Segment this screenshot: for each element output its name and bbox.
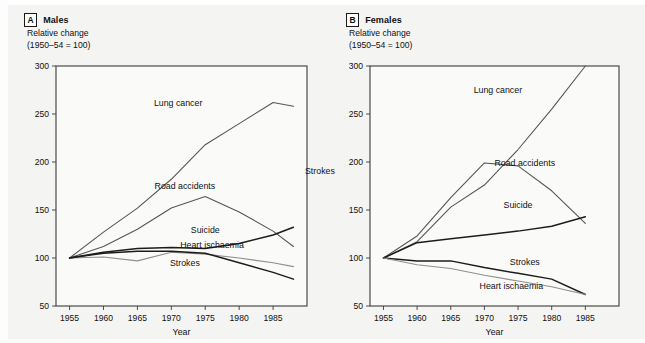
x-tick-label: 1985 <box>264 313 283 323</box>
x-tick-label: 1960 <box>94 313 113 323</box>
series-label-suicide: Suicide <box>191 225 220 235</box>
y-tick-label: 250 <box>35 109 50 119</box>
overflow-series-label-strokes: Strokes <box>305 166 335 176</box>
series-label-heart-ischaemia: Heart ischaemia <box>180 240 244 250</box>
series-label-heart-ischaemia: Heart ischaemia <box>480 281 544 291</box>
y-tick-label: 150 <box>349 205 364 215</box>
y-tick-label: 100 <box>349 253 364 263</box>
series-label-strokes: Strokes <box>510 257 540 267</box>
y-tick-label: 200 <box>349 157 364 167</box>
series-label-suicide: Suicide <box>504 200 533 210</box>
x-axis-title: Year <box>486 327 504 337</box>
x-tick-label: 1975 <box>508 313 527 323</box>
x-tick-label: 1965 <box>441 313 460 323</box>
chart-males: 5010015020025030019551960196519701975198… <box>0 0 322 343</box>
chart-females: 5010015020025030019551960196519701975198… <box>322 0 645 343</box>
x-tick-label: 1955 <box>374 313 393 323</box>
y-tick-label: 50 <box>353 301 363 311</box>
series-label-road-accidents: Road accidents <box>155 181 216 191</box>
x-tick-label: 1985 <box>576 313 595 323</box>
y-tick-label: 50 <box>39 301 49 311</box>
x-tick-label: 1955 <box>60 313 79 323</box>
y-tick-label: 250 <box>349 109 364 119</box>
x-tick-label: 1960 <box>408 313 427 323</box>
y-tick-label: 150 <box>35 205 50 215</box>
x-tick-label: 1970 <box>162 313 181 323</box>
series-label-strokes: Strokes <box>170 258 200 268</box>
panel-males: A Males Relative change (1950–54 = 100) … <box>0 0 322 343</box>
y-tick-label: 300 <box>35 61 50 71</box>
series-label-road-accidents: Road accidents <box>494 158 555 168</box>
x-tick-label: 1980 <box>542 313 561 323</box>
series-label-lung-cancer: Lung cancer <box>474 85 522 95</box>
y-tick-label: 100 <box>35 253 50 263</box>
figure-root: A Males Relative change (1950–54 = 100) … <box>0 0 645 343</box>
y-tick-label: 300 <box>349 61 364 71</box>
series-label-lung-cancer: Lung cancer <box>154 98 202 108</box>
x-axis-title: Year <box>173 327 191 337</box>
x-tick-label: 1965 <box>128 313 147 323</box>
x-tick-label: 1975 <box>196 313 215 323</box>
y-tick-label: 200 <box>35 157 50 167</box>
x-tick-label: 1970 <box>475 313 494 323</box>
x-tick-label: 1980 <box>230 313 249 323</box>
panel-females: B Females Relative change (1950–54 = 100… <box>322 0 645 343</box>
